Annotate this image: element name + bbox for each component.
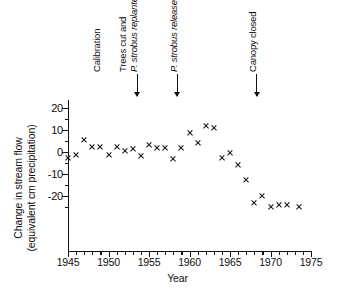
x-tick-minor xyxy=(117,251,118,255)
y-tick-minor xyxy=(65,163,70,164)
x-tick-label: 1975 xyxy=(300,256,323,268)
x-tick-minor xyxy=(206,251,207,255)
data-point xyxy=(146,142,152,148)
x-tick-minor xyxy=(246,251,247,255)
y-tick-minor xyxy=(65,207,70,208)
x-tick-minor xyxy=(173,251,174,255)
data-point xyxy=(138,153,144,159)
data-point xyxy=(122,148,128,154)
x-axis-title: Year xyxy=(0,272,355,284)
y-axis-line xyxy=(68,100,69,252)
annotation-label: Calibration xyxy=(91,29,102,72)
annotation-arrow-icon xyxy=(137,74,138,96)
x-tick-label: 1945 xyxy=(57,256,80,268)
x-tick-label: 1970 xyxy=(259,256,282,268)
annotation-label: Canopy closed xyxy=(247,12,258,72)
x-tick-label: 1965 xyxy=(219,256,242,268)
x-tick-minor xyxy=(303,251,304,255)
data-point xyxy=(178,145,184,151)
data-point xyxy=(195,140,201,146)
x-tick-minor xyxy=(133,251,134,255)
data-point xyxy=(97,144,103,150)
x-tick-minor xyxy=(141,251,142,255)
data-point xyxy=(284,202,290,208)
y-tick-label: 20 xyxy=(51,102,63,114)
data-point xyxy=(73,152,79,158)
data-point xyxy=(154,145,160,151)
x-tick-minor xyxy=(254,251,255,255)
x-tick-label: 1955 xyxy=(138,256,161,268)
data-point xyxy=(170,156,176,162)
y-axis-title-line-2: (equivalent cm precipitation) xyxy=(25,93,38,283)
data-point xyxy=(211,125,217,131)
x-tick-minor xyxy=(92,251,93,255)
x-tick-minor xyxy=(295,251,296,255)
x-tick-minor xyxy=(214,251,215,255)
y-tick-minor xyxy=(65,119,70,120)
annotation-arrow-icon xyxy=(177,74,178,96)
y-tick-label: 10 xyxy=(51,124,63,136)
data-point xyxy=(235,162,241,168)
data-point xyxy=(268,204,274,210)
x-tick-minor xyxy=(198,251,199,255)
data-point xyxy=(243,177,249,183)
annotation-arrow-icon xyxy=(256,74,257,96)
data-point xyxy=(251,200,257,206)
y-tick-minor xyxy=(65,185,70,186)
annotation-label: Trees cut and xyxy=(117,0,128,72)
y-axis-title-line-1: Change in stream flow xyxy=(12,93,25,283)
y-tick-major xyxy=(62,174,69,175)
data-point xyxy=(89,144,95,150)
data-point xyxy=(203,123,209,129)
data-point xyxy=(276,202,282,208)
data-point xyxy=(106,152,112,158)
x-tick-minor xyxy=(157,251,158,255)
y-tick-major xyxy=(62,196,69,197)
data-point xyxy=(187,130,193,136)
x-tick-minor xyxy=(262,251,263,255)
x-tick-minor xyxy=(76,251,77,255)
data-point xyxy=(219,155,225,161)
y-tick-minor xyxy=(65,141,70,142)
figure: 20100-10-20 1945195019551960196519701975… xyxy=(0,0,355,300)
x-tick-minor xyxy=(222,251,223,255)
x-tick-minor xyxy=(181,251,182,255)
y-tick-label: -10 xyxy=(48,168,63,180)
y-tick-label: 0 xyxy=(57,146,63,158)
x-tick-minor xyxy=(279,251,280,255)
annotation-label: P. strobus released xyxy=(168,0,179,72)
x-tick-minor xyxy=(84,251,85,255)
x-tick-minor xyxy=(125,251,126,255)
data-point xyxy=(81,137,87,143)
x-tick-minor xyxy=(165,251,166,255)
y-tick-label: -20 xyxy=(48,190,63,202)
data-point xyxy=(296,204,302,210)
data-point xyxy=(227,150,233,156)
x-tick-minor xyxy=(100,251,101,255)
y-axis-title: Change in stream flow (equivalent cm pre… xyxy=(12,93,38,283)
scatter-plot: 20100-10-20 1945195019551960196519701975… xyxy=(0,0,355,300)
annotation-label: P. strobus replanted xyxy=(128,0,139,72)
data-point xyxy=(162,145,168,151)
x-tick-minor xyxy=(287,251,288,255)
data-point xyxy=(130,146,136,152)
data-point xyxy=(114,144,120,150)
x-tick-label: 1950 xyxy=(97,256,120,268)
data-point xyxy=(259,193,265,199)
x-tick-minor xyxy=(238,251,239,255)
x-tick-label: 1960 xyxy=(178,256,201,268)
